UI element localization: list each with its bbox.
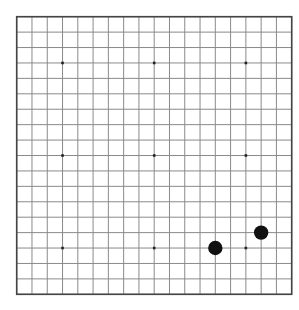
go-board[interactable]: [0, 0, 299, 310]
stones-layer: [208, 225, 268, 255]
star-point: [153, 247, 156, 250]
star-point: [245, 154, 248, 157]
black-stone: [254, 225, 268, 239]
go-board-view: [0, 0, 299, 310]
star-point: [153, 62, 156, 65]
black-stone: [208, 241, 222, 255]
star-point: [61, 154, 64, 157]
star-point: [61, 247, 64, 250]
star-point: [61, 62, 64, 65]
star-point: [245, 62, 248, 65]
star-point: [153, 154, 156, 157]
star-point: [245, 247, 248, 250]
